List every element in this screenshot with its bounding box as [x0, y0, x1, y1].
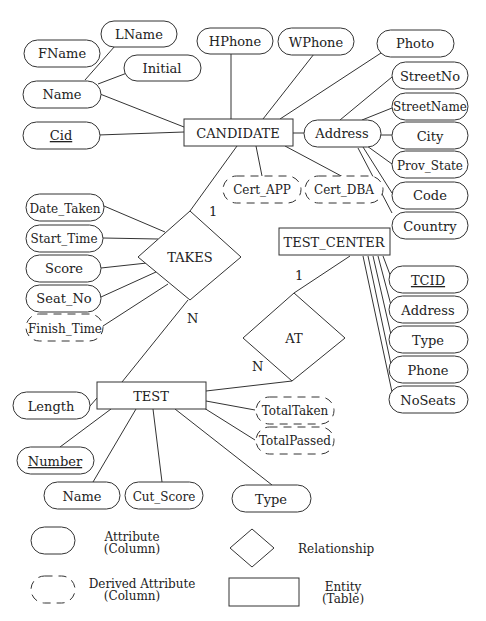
- line-score-takes: [101, 263, 147, 268]
- legend-attribute: Attribute (Column): [31, 527, 160, 556]
- attribute-name: Name: [23, 81, 101, 108]
- svg-text:Phone: Phone: [407, 363, 448, 378]
- attribute-cut-score: Cut_Score: [125, 482, 203, 509]
- attribute-cid: Cid: [23, 122, 100, 149]
- attribute-shape-icon: [31, 527, 75, 554]
- svg-text:(Table): (Table): [322, 592, 364, 606]
- er-diagram: FName LName Initial Name Cid HPhone WPho…: [0, 0, 486, 621]
- legend-derived-attribute: Derived Attribute (Column): [31, 576, 195, 603]
- attribute-date-taken: Date_Taken: [26, 194, 104, 221]
- line-cid-candidate: [98, 132, 184, 135]
- svg-text:StreetNo: StreetNo: [400, 69, 460, 84]
- line-datetaken-takes: [104, 206, 165, 232]
- svg-text:WPhone: WPhone: [289, 35, 344, 50]
- attribute-prov-state: Prov_State: [392, 151, 468, 178]
- svg-text:Cert_APP: Cert_APP: [233, 183, 291, 197]
- cardinality-at-test-center: 1: [295, 268, 303, 283]
- attribute-fname: FName: [24, 40, 100, 67]
- entity-candidate: CANDIDATE: [184, 119, 293, 146]
- attribute-lname: LName: [101, 21, 177, 47]
- line-name-candidate: [100, 94, 184, 127]
- attribute-seat-no: Seat_No: [26, 285, 101, 312]
- svg-text:Name: Name: [62, 489, 101, 504]
- attribute-tc-address: Address: [389, 296, 468, 323]
- attribute-tc-phone: Phone: [389, 356, 468, 383]
- svg-text:Seat_No: Seat_No: [36, 291, 91, 306]
- attribute-start-time: Start_Time: [26, 225, 103, 252]
- line-seatno-takes: [101, 272, 156, 297]
- svg-text:Type: Type: [255, 492, 287, 507]
- derived-attribute-finish-time: Finish_Time: [26, 314, 103, 341]
- entity-test: TEST: [97, 382, 206, 409]
- line-initial-name: [98, 73, 127, 84]
- cardinality-at-test: N: [252, 359, 263, 374]
- svg-text:Length: Length: [28, 399, 75, 414]
- derived-attribute-cert-app: Cert_APP: [223, 176, 301, 203]
- line-candidate-certapp: [256, 146, 262, 176]
- line-provstate-address: [367, 146, 392, 164]
- svg-text:FName: FName: [38, 46, 86, 61]
- derived-attribute-shape-icon: [31, 576, 75, 603]
- svg-text:TAKES: TAKES: [167, 250, 212, 265]
- line-photo-candidate: [280, 53, 381, 119]
- attribute-country: Country: [392, 212, 468, 239]
- primary-key-label: TCID: [411, 273, 445, 288]
- attribute-tcid: TCID: [389, 266, 468, 293]
- svg-text:TotalTaken: TotalTaken: [262, 404, 329, 418]
- attribute-test-type: Type: [232, 485, 311, 512]
- attribute-tc-type: Type: [389, 326, 468, 353]
- attribute-city: City: [392, 122, 468, 149]
- svg-text:NoSeats: NoSeats: [400, 393, 455, 408]
- legend: Attribute (Column) Relationship Derived …: [31, 527, 374, 606]
- attribute-streetno: StreetNo: [392, 62, 468, 89]
- attribute-hphone: HPhone: [197, 28, 273, 54]
- svg-text:TotalPassed: TotalPassed: [259, 434, 331, 448]
- line-cutscore-test: [153, 409, 162, 482]
- derived-attribute-cert-dba: Cert_DBA: [305, 176, 383, 203]
- svg-text:Initial: Initial: [143, 61, 182, 76]
- primary-key-label: Cid: [50, 128, 72, 143]
- svg-text:Score: Score: [45, 261, 83, 276]
- attribute-test-name: Name: [44, 482, 120, 509]
- svg-text:Start_Time: Start_Time: [30, 232, 97, 246]
- line-candidate-certdba: [285, 146, 345, 178]
- line-tc-phone: [368, 256, 392, 369]
- svg-text:(Column): (Column): [104, 542, 160, 556]
- svg-text:TEST: TEST: [133, 389, 169, 404]
- primary-key-label: Number: [28, 454, 83, 469]
- svg-text:TEST_CENTER: TEST_CENTER: [284, 235, 386, 250]
- svg-text:CANDIDATE: CANDIDATE: [196, 126, 280, 141]
- svg-text:AT: AT: [284, 331, 303, 346]
- svg-text:Address: Address: [400, 303, 454, 318]
- svg-text:Photo: Photo: [396, 36, 434, 51]
- attribute-streetname: StreetName: [392, 93, 468, 120]
- svg-text:Relationship: Relationship: [298, 542, 374, 556]
- attribute-code: Code: [392, 182, 468, 209]
- line-starttime-takes: [103, 238, 158, 239]
- svg-text:Cert_DBA: Cert_DBA: [314, 183, 374, 197]
- line-takes-test: [122, 300, 188, 382]
- svg-text:Code: Code: [413, 188, 447, 203]
- svg-text:Name: Name: [42, 87, 81, 102]
- line-length-test: [90, 398, 97, 406]
- svg-text:City: City: [417, 129, 444, 144]
- relationship-takes: TAKES: [138, 211, 241, 300]
- svg-text:LName: LName: [115, 27, 163, 42]
- cardinality-takes-test: N: [187, 311, 198, 326]
- svg-text:Cut_Score: Cut_Score: [133, 490, 196, 504]
- legend-relationship: Relationship: [230, 529, 374, 567]
- svg-text:(Column): (Column): [104, 589, 160, 603]
- svg-text:StreetName: StreetName: [393, 100, 467, 114]
- line-wphone-candidate: [263, 54, 314, 119]
- entity-test-center: TEST_CENTER: [279, 228, 390, 255]
- line-name-test: [93, 409, 136, 482]
- cardinality-takes-candidate: 1: [209, 204, 217, 219]
- line-streetno-address: [340, 77, 392, 120]
- svg-text:Type: Type: [412, 333, 444, 348]
- relationship-shape-icon: [230, 529, 274, 567]
- svg-text:Finish_Time: Finish_Time: [28, 322, 102, 336]
- attribute-photo: Photo: [377, 30, 454, 57]
- svg-text:Prov_State: Prov_State: [397, 159, 463, 173]
- attribute-score: Score: [26, 255, 101, 282]
- svg-text:Address: Address: [314, 126, 368, 141]
